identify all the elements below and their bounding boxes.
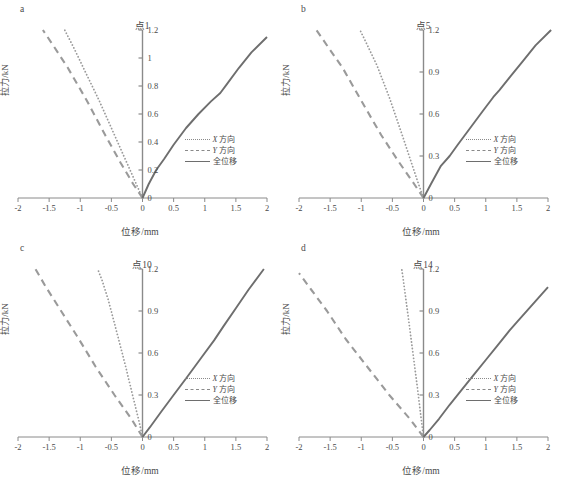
series-line xyxy=(424,287,549,437)
y-axis-label-b: 拉力/kN xyxy=(279,64,292,96)
plot-area-a: -2-1.5-1-0.500.511.5200.20.40.60.811.2X … xyxy=(18,30,267,198)
figure-container: a 点1 拉力/kN 位移/mm -2-1.5-1-0.500.511.5200… xyxy=(0,0,561,478)
x-tick-label: 1.5 xyxy=(512,203,523,213)
subplot-letter-a: a xyxy=(20,4,24,14)
legend-swatch-dotted-icon xyxy=(466,139,491,140)
legend-swatch-dotted-icon xyxy=(185,139,210,140)
subplot-panel-a: a 点1 拉力/kN 位移/mm -2-1.5-1-0.500.511.5200… xyxy=(0,0,280,239)
x-tick-label: -1 xyxy=(77,203,84,213)
y-tick-label: 0.3 xyxy=(148,390,159,400)
legend-swatch-dashed-icon xyxy=(185,389,210,390)
x-tick-label: -1 xyxy=(358,203,365,213)
legend-item[interactable]: Y 方向 xyxy=(185,384,237,395)
y-axis-label-d: 拉力/kN xyxy=(279,303,292,335)
chart-legend-b: X 方向Y 方向全位移 xyxy=(466,134,518,167)
x-tick-label: 0.5 xyxy=(449,442,460,452)
x-tick-label: 0 xyxy=(421,442,425,452)
series-line xyxy=(65,30,143,198)
y-tick-label: 1.2 xyxy=(148,264,159,274)
x-tick-label: -2 xyxy=(295,442,302,452)
y-tick-label: 0.2 xyxy=(148,165,159,175)
x-tick-label: 2 xyxy=(265,203,269,213)
y-tick-label: 0.6 xyxy=(148,109,159,119)
x-axis-label-c: 位移/mm xyxy=(121,463,158,477)
y-tick-label: 0.9 xyxy=(429,306,440,316)
legend-label: 全位移 xyxy=(494,395,518,406)
series-line xyxy=(98,269,143,437)
x-tick-label: -2 xyxy=(14,203,21,213)
x-tick-label: 0 xyxy=(421,203,425,213)
legend-item[interactable]: Y 方向 xyxy=(466,145,518,156)
legend-swatch-solid-icon xyxy=(466,400,491,401)
x-tick-label: -0.5 xyxy=(386,203,399,213)
chart-legend-d: X 方向Y 方向全位移 xyxy=(466,373,518,406)
legend-label: Y 方向 xyxy=(213,384,235,395)
x-tick-label: -1.5 xyxy=(42,203,55,213)
x-tick-label: -1 xyxy=(77,442,84,452)
y-tick-label: 0.3 xyxy=(429,151,440,161)
subplot-letter-d: d xyxy=(301,243,306,253)
legend-label: X 方向 xyxy=(213,134,236,145)
legend-swatch-dotted-icon xyxy=(466,378,491,379)
y-tick-label: 0.9 xyxy=(429,67,440,77)
legend-item[interactable]: 全位移 xyxy=(185,395,237,406)
legend-item[interactable]: 全位移 xyxy=(466,156,518,167)
legend-swatch-solid-icon xyxy=(185,161,210,162)
legend-swatch-dashed-icon xyxy=(466,389,491,390)
legend-swatch-solid-icon xyxy=(185,400,210,401)
legend-item[interactable]: Y 方向 xyxy=(466,384,518,395)
legend-label: X 方向 xyxy=(494,134,517,145)
series-line xyxy=(424,30,552,198)
y-tick-label: 0.6 xyxy=(148,348,159,358)
series-line xyxy=(35,269,142,437)
x-tick-label: -1.5 xyxy=(323,203,336,213)
legend-item[interactable]: 全位移 xyxy=(185,156,237,167)
chart-svg-c xyxy=(18,269,267,437)
legend-label: 全位移 xyxy=(213,156,237,167)
y-tick-label: 1.2 xyxy=(148,25,159,35)
y-tick-label: 0.3 xyxy=(429,390,440,400)
x-axis-label-a: 位移/mm xyxy=(121,224,158,238)
legend-label: 全位移 xyxy=(494,156,518,167)
legend-item[interactable]: X 方向 xyxy=(466,373,518,384)
y-tick-label: 0.6 xyxy=(429,109,440,119)
x-axis-label-b: 位移/mm xyxy=(402,224,439,238)
x-tick-label: -1 xyxy=(358,442,365,452)
y-tick-label: 0 xyxy=(148,193,152,203)
x-tick-label: 1.5 xyxy=(231,203,242,213)
subplot-panel-b: b 点5 拉力/kN 位移/mm -2-1.5-1-0.500.511.5200… xyxy=(281,0,561,239)
y-tick-label: 1.2 xyxy=(429,264,440,274)
series-line xyxy=(143,37,268,198)
chart-svg-d xyxy=(299,269,548,437)
x-tick-label: 0.5 xyxy=(168,203,179,213)
legend-label: Y 方向 xyxy=(494,145,516,156)
y-axis-label-c: 拉力/kN xyxy=(0,303,11,335)
x-tick-label: -1.5 xyxy=(42,442,55,452)
x-axis-label-d: 位移/mm xyxy=(402,463,439,477)
x-tick-label: -2 xyxy=(295,203,302,213)
x-tick-label: -0.5 xyxy=(386,442,399,452)
legend-label: Y 方向 xyxy=(494,384,516,395)
y-tick-label: 0.9 xyxy=(148,306,159,316)
legend-item[interactable]: X 方向 xyxy=(185,134,237,145)
legend-item[interactable]: X 方向 xyxy=(466,134,518,145)
legend-swatch-dashed-icon xyxy=(185,150,210,151)
legend-label: X 方向 xyxy=(494,373,517,384)
x-tick-label: -0.5 xyxy=(105,442,118,452)
subplot-letter-b: b xyxy=(301,4,306,14)
legend-label: 全位移 xyxy=(213,395,237,406)
legend-label: X 方向 xyxy=(213,373,236,384)
legend-swatch-solid-icon xyxy=(466,161,491,162)
legend-item[interactable]: Y 方向 xyxy=(185,145,237,156)
chart-legend-c: X 方向Y 方向全位移 xyxy=(185,373,237,406)
series-line xyxy=(299,273,424,437)
x-tick-label: 1.5 xyxy=(512,442,523,452)
y-tick-label: 1.2 xyxy=(429,25,440,35)
series-line xyxy=(316,30,423,198)
legend-swatch-dotted-icon xyxy=(185,378,210,379)
y-tick-label: 0 xyxy=(429,432,433,442)
x-tick-label: -2 xyxy=(14,442,21,452)
legend-item[interactable]: 全位移 xyxy=(466,395,518,406)
x-tick-label: -0.5 xyxy=(105,203,118,213)
legend-item[interactable]: X 方向 xyxy=(185,373,237,384)
